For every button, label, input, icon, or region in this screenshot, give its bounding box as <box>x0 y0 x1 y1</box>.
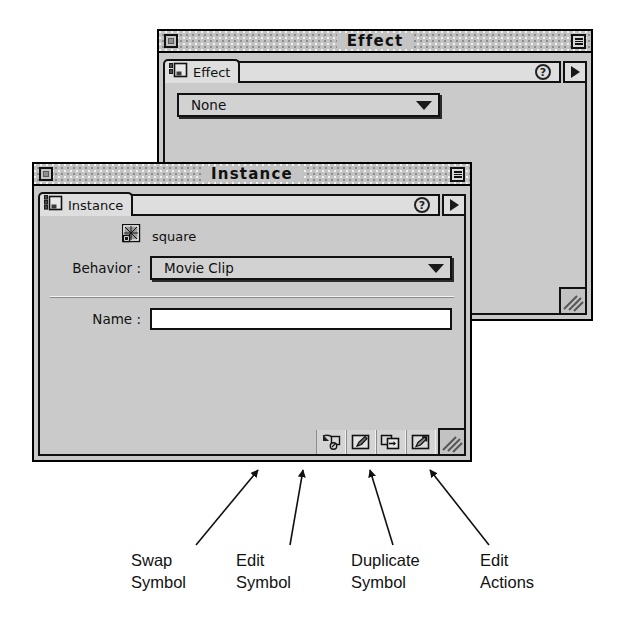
effect-titlebar[interactable]: Effect <box>159 31 591 53</box>
callout-arrow-swap-symbol <box>196 470 258 545</box>
callout-arrow-edit-symbol <box>290 470 303 545</box>
instance-panel-window[interactable]: Instance Instance ? <box>32 162 472 462</box>
swap-symbol-button[interactable] <box>316 430 346 454</box>
symbol-name: square <box>152 229 196 244</box>
zoom-box[interactable] <box>450 167 465 182</box>
instance-tab-row: Instance ? <box>38 190 466 216</box>
edit-symbol-button[interactable] <box>346 430 376 454</box>
instance-tab-filler: ? <box>131 194 440 216</box>
instance-panel-body: square Behavior : Movie Clip Name : <box>38 214 466 456</box>
instance-toolbar <box>316 430 436 454</box>
tab-effect-label: Effect <box>193 65 230 80</box>
chevron-down-icon <box>428 264 444 273</box>
callout-line-2: Symbol <box>131 572 186 594</box>
callout-line-2: Symbol <box>236 572 291 594</box>
behavior-label: Behavior : <box>52 260 150 276</box>
tab-instance[interactable]: Instance <box>38 192 133 216</box>
panel-tab-icon <box>44 195 63 216</box>
name-row: Name : <box>52 308 452 330</box>
effect-tab-row: Effect ? <box>163 57 587 83</box>
behavior-row: Behavior : Movie Clip <box>52 256 452 280</box>
section-divider <box>50 296 454 298</box>
zoom-box[interactable] <box>571 34 586 49</box>
tab-effect[interactable]: Effect <box>163 59 240 83</box>
callout-line-1: Edit <box>236 550 291 572</box>
resize-grip[interactable] <box>559 287 585 313</box>
resize-grip[interactable] <box>438 428 464 454</box>
callout-arrow-duplicate-symbol <box>370 470 393 545</box>
effect-type-value: None <box>191 97 226 113</box>
close-box[interactable] <box>39 167 53 181</box>
callout-line-1: Duplicate <box>351 550 420 572</box>
chevron-right-icon <box>450 199 459 211</box>
symbol-row: square <box>122 224 196 249</box>
edit-symbol-icon <box>350 433 372 451</box>
edit-actions-button[interactable] <box>406 430 436 454</box>
chevron-down-icon <box>416 101 432 110</box>
effect-window-title: Effect <box>337 33 414 49</box>
callout-swap-symbol: Swap Symbol <box>131 550 186 594</box>
edit-actions-icon <box>410 433 432 451</box>
swap-symbol-icon <box>320 433 342 451</box>
callout-line-1: Swap <box>131 550 186 572</box>
name-label: Name : <box>52 311 150 327</box>
behavior-dropdown[interactable]: Movie Clip <box>150 256 452 280</box>
callout-line-2: Actions <box>480 572 534 594</box>
duplicate-symbol-button[interactable] <box>376 430 406 454</box>
callout-line-1: Edit <box>480 550 534 572</box>
callout-arrow-edit-actions <box>430 470 489 545</box>
movie-clip-symbol-icon <box>122 224 143 249</box>
chevron-right-icon <box>571 66 580 78</box>
instance-titlebar[interactable]: Instance <box>34 164 470 186</box>
effect-panel-menu-button[interactable] <box>563 61 587 83</box>
help-icon[interactable]: ? <box>535 64 551 80</box>
callout-edit-actions: Edit Actions <box>480 550 534 594</box>
instance-panel-menu-button[interactable] <box>442 194 466 216</box>
panel-tab-icon <box>169 62 188 83</box>
instance-window-title: Instance <box>201 166 303 182</box>
effect-type-dropdown[interactable]: None <box>177 93 440 117</box>
help-icon[interactable]: ? <box>414 197 430 213</box>
callout-line-2: Symbol <box>351 572 420 594</box>
close-box[interactable] <box>164 34 178 48</box>
name-input[interactable] <box>150 308 452 330</box>
instance-panel-inner: Instance ? <box>38 190 466 456</box>
callout-duplicate-symbol: Duplicate Symbol <box>351 550 420 594</box>
callout-edit-symbol: Edit Symbol <box>236 550 291 594</box>
behavior-value: Movie Clip <box>164 260 234 276</box>
effect-tab-filler: ? <box>238 61 561 83</box>
duplicate-symbol-icon <box>380 433 402 451</box>
tab-instance-label: Instance <box>68 198 123 213</box>
